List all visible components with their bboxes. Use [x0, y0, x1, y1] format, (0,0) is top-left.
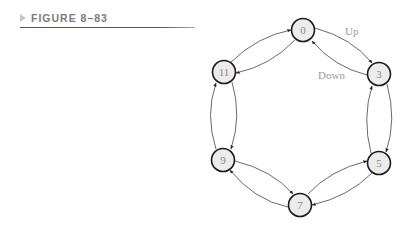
node-label: 0: [300, 24, 306, 36]
node-5: 5: [368, 152, 391, 175]
node-0: 0: [292, 19, 315, 42]
node-3: 3: [368, 63, 391, 86]
node-9: 9: [212, 149, 235, 172]
node-label: 11: [219, 66, 230, 78]
edge-7-to-9: [230, 170, 288, 207]
edge-9-to-7: [235, 161, 293, 194]
edges: [211, 28, 392, 207]
down-label: Down: [318, 69, 345, 81]
node-7: 7: [289, 194, 312, 217]
node-label: 5: [376, 157, 382, 169]
state-diagram: 0 3 5 7 9 11 Up Down: [0, 0, 417, 229]
up-label: Up: [345, 25, 359, 37]
edge-5-to-7: [312, 173, 372, 205]
edge-5-to-3: [367, 86, 372, 153]
edge-0-to-11: [236, 40, 295, 73]
node-11: 11: [213, 61, 236, 84]
node-label: 9: [220, 154, 226, 166]
edge-9-to-11: [211, 83, 217, 149]
nodes: 0 3 5 7 9 11: [212, 19, 391, 217]
node-label: 3: [376, 68, 382, 80]
node-label: 7: [297, 199, 303, 211]
edge-7-to-5: [308, 161, 367, 194]
edge-11-to-9: [231, 82, 237, 149]
edge-3-to-5: [386, 84, 392, 152]
edge-11-to-0: [231, 30, 291, 62]
edge-0-to-3: [315, 28, 372, 63]
